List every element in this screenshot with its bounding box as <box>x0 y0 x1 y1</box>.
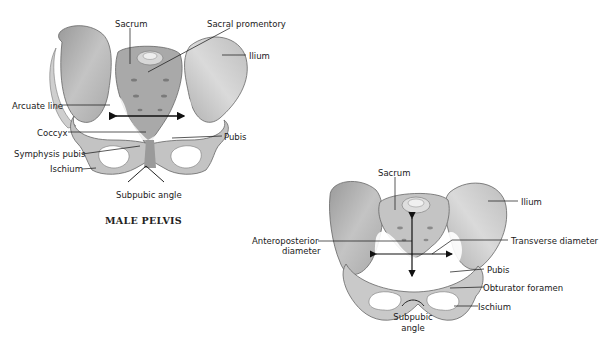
label-male-sacral-promontory: Sacral promentory <box>207 19 286 29</box>
label-female-ischium: Ischium <box>478 302 511 312</box>
label-female-transverse-diameter: Transverse diameter <box>511 236 598 246</box>
label-female-ap-diameter: diameter <box>282 246 321 256</box>
label-male-sacrum: Sacrum <box>115 19 147 29</box>
label-male-ischium: Ischium <box>50 164 83 174</box>
label-male-ilium: Ilium <box>249 51 270 61</box>
label-female-angle: angle <box>392 323 434 333</box>
label-male-arcuate-line: Arcuate line <box>12 101 63 111</box>
label-male-symphysis-pubis: Symphysis pubis <box>14 149 85 159</box>
label-female-anteroposterior: Anteroposterior <box>252 236 318 246</box>
label-female-pubis: Pubis <box>487 265 510 275</box>
label-female-subpubic: Subpubic <box>392 312 434 322</box>
label-female-obturator-foramen: Obturator foramen <box>483 283 563 293</box>
label-male-subpubic-angle: Subpubic angle <box>116 190 182 200</box>
label-male-pubis: Pubis <box>224 132 247 142</box>
caption-male-pelvis: MALE PELVIS <box>105 215 182 226</box>
label-female-ilium: Ilium <box>521 197 542 207</box>
female-pelvis <box>318 177 518 320</box>
label-female-sacrum: Sacrum <box>378 168 410 178</box>
label-male-coccyx: Coccyx <box>37 128 68 138</box>
